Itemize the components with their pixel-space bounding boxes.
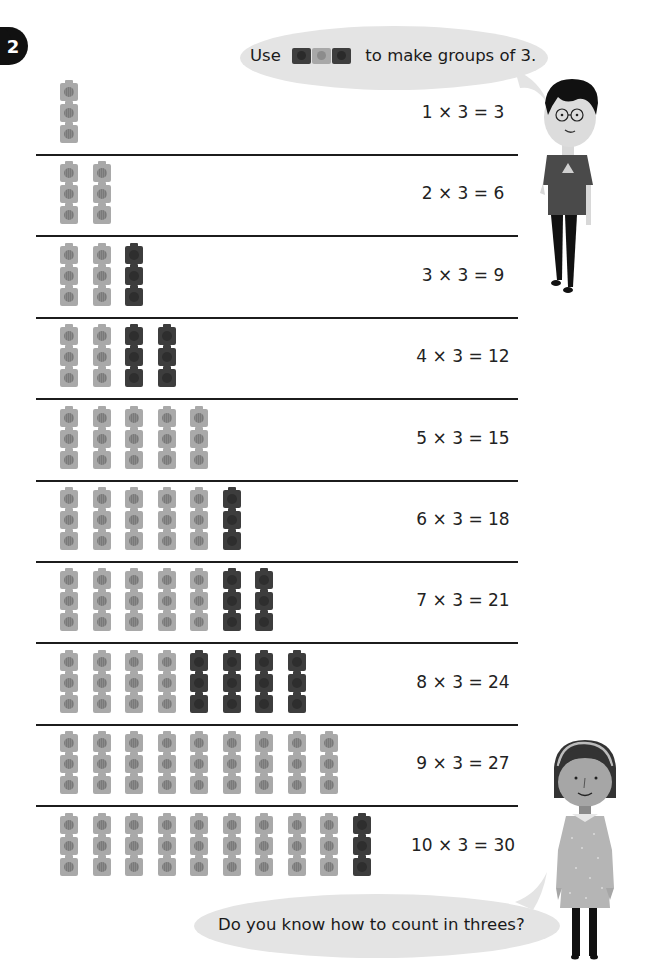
- light-cube-icon: [93, 816, 111, 834]
- question-number-badge: 2: [0, 27, 28, 65]
- light-cube-icon: [320, 816, 338, 834]
- light-cube-icon: [93, 246, 111, 264]
- light-cube-icon: [158, 653, 176, 671]
- dark-cube-icon: [223, 571, 241, 589]
- dark-cube-group: [223, 490, 241, 553]
- light-cube-icon: [158, 695, 176, 713]
- dark-cube-icon: [255, 571, 273, 589]
- multiplication-row: 8 × 3 = 24: [0, 643, 520, 724]
- light-cube-icon: [158, 490, 176, 508]
- dark-cube-icon: [255, 613, 273, 631]
- dark-cube-icon: [158, 369, 176, 387]
- dark-cube-icon: [255, 592, 273, 610]
- girl-body: [556, 814, 614, 960]
- light-cube-icon: [60, 674, 78, 692]
- multiplication-row: 7 × 3 = 21: [0, 561, 520, 642]
- dark-cube-group: [353, 816, 371, 879]
- bubble-suffix: to make groups of 3.: [365, 46, 536, 65]
- light-cube-icon: [60, 327, 78, 345]
- light-cube-icon: [255, 816, 273, 834]
- light-cube-icon: [158, 816, 176, 834]
- light-cube-group: [60, 734, 78, 797]
- light-cube-icon: [60, 858, 78, 876]
- light-cube-icon: [255, 776, 273, 794]
- light-cube-group: [93, 164, 111, 227]
- light-cube-icon: [125, 451, 143, 469]
- equation-text: 1 × 3 = 3: [400, 102, 526, 122]
- multiplication-row: 10 × 3 = 30: [0, 806, 520, 887]
- dark-cube-icon: [288, 653, 306, 671]
- light-cube-icon: [158, 674, 176, 692]
- light-cube-icon: [190, 837, 208, 855]
- light-cube-icon: [288, 776, 306, 794]
- light-cube-icon: [93, 511, 111, 529]
- light-cube-icon: [93, 592, 111, 610]
- light-cube-icon: [255, 755, 273, 773]
- multiplication-row: 1 × 3 = 3: [0, 73, 520, 154]
- light-cube-icon: [125, 511, 143, 529]
- light-cube-icon: [125, 695, 143, 713]
- light-cube-group: [125, 816, 143, 879]
- dark-cube-icon: [125, 348, 143, 366]
- dark-cube-group: [255, 571, 273, 634]
- light-cube-icon: [60, 734, 78, 752]
- dark-cube-icon: [255, 695, 273, 713]
- light-cube-icon: [158, 755, 176, 773]
- light-cube-icon: [190, 532, 208, 550]
- dark-cube-group: [223, 571, 241, 634]
- light-cube-icon: [93, 451, 111, 469]
- light-cube-group: [288, 734, 306, 797]
- light-cube-icon: [93, 409, 111, 427]
- dark-cube-icon: [223, 674, 241, 692]
- dark-cube-icon: [255, 674, 273, 692]
- light-cube-icon: [93, 734, 111, 752]
- multiplication-row: 3 × 3 = 9: [0, 236, 520, 317]
- dark-cube-icon: [288, 674, 306, 692]
- light-cube-icon: [93, 613, 111, 631]
- light-cube-icon: [60, 369, 78, 387]
- light-cube-icon: [320, 837, 338, 855]
- dark-cube-icon: [158, 327, 176, 345]
- light-cube-icon: [158, 776, 176, 794]
- light-cube-icon: [190, 734, 208, 752]
- light-cube-icon: [60, 104, 78, 122]
- light-cube-icon: [190, 613, 208, 631]
- light-cube-group: [60, 490, 78, 553]
- light-cube-group: [255, 734, 273, 797]
- light-cube-group: [288, 816, 306, 879]
- bottom-bubble-tail: [515, 872, 555, 912]
- light-cube-icon: [60, 409, 78, 427]
- light-cube-icon: [60, 348, 78, 366]
- light-cube-icon: [125, 490, 143, 508]
- light-cube-icon: [158, 592, 176, 610]
- light-cube-icon: [320, 734, 338, 752]
- dark-cube-icon: [223, 613, 241, 631]
- light-cube-icon: [93, 164, 111, 182]
- light-cube-icon: [125, 532, 143, 550]
- light-cube-group: [93, 571, 111, 634]
- light-cube-icon: [93, 755, 111, 773]
- light-cube-icon: [320, 776, 338, 794]
- light-cube-icon: [288, 858, 306, 876]
- light-cube-icon: [93, 674, 111, 692]
- light-cube-icon: [60, 125, 78, 143]
- light-cube-icon: [125, 837, 143, 855]
- light-cube-icon: [158, 511, 176, 529]
- light-cube-icon: [125, 776, 143, 794]
- light-cube-icon: [93, 695, 111, 713]
- multiplication-row: 2 × 3 = 6: [0, 154, 520, 235]
- light-cube-icon: [125, 592, 143, 610]
- light-cube-icon: [288, 837, 306, 855]
- boy-body: [540, 155, 593, 293]
- equation-text: 4 × 3 = 12: [400, 346, 526, 366]
- multiplication-row: 5 × 3 = 15: [0, 399, 520, 480]
- light-cube-group: [93, 653, 111, 716]
- dark-cube-group: [223, 653, 241, 716]
- equation-text: 2 × 3 = 6: [400, 183, 526, 203]
- cube-icons: [292, 46, 357, 65]
- light-cube-icon: [60, 83, 78, 101]
- light-cube-group: [320, 734, 338, 797]
- light-cube-icon: [93, 430, 111, 448]
- top-bubble-text: Use to make groups of 3.: [250, 46, 536, 65]
- light-cube-group: [158, 653, 176, 716]
